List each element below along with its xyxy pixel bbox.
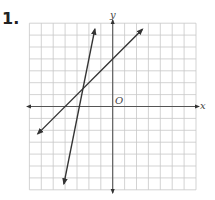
coordinate-graph: y x O bbox=[0, 0, 215, 200]
y-axis-label: y bbox=[109, 9, 116, 20]
x-axis-label: x bbox=[200, 100, 206, 111]
origin-label: O bbox=[115, 95, 123, 106]
